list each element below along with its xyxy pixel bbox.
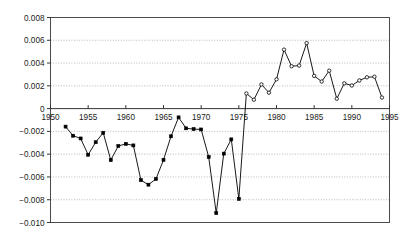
data-point-marker-open [260, 83, 263, 86]
data-point-marker-filled [139, 179, 142, 182]
line-chart: 0.0080.0060.0040.0020−0.002−0.004−0.006−… [0, 0, 413, 243]
chart-container: 0.0080.0060.0040.0020−0.002−0.004−0.006−… [0, 0, 413, 243]
data-point-marker-filled [102, 131, 105, 134]
data-point-marker-open [358, 79, 361, 82]
data-point-marker-open [365, 76, 368, 79]
x-tick-label: 1995 [380, 113, 399, 122]
data-point-marker-filled [87, 153, 90, 156]
data-point-marker-filled [185, 127, 188, 130]
data-point-marker-filled [147, 183, 150, 186]
y-tick-label: 0.002 [24, 82, 45, 91]
data-point-marker-open [290, 65, 293, 68]
data-point-marker-filled [237, 197, 240, 200]
x-tick-label: 1990 [343, 113, 362, 122]
data-point-marker-open [343, 82, 346, 85]
data-point-marker-open [282, 48, 285, 51]
y-tick-label: −0.002 [19, 127, 45, 136]
data-point-marker-open [267, 91, 270, 94]
data-point-marker-open [305, 41, 308, 44]
data-point-marker-filled [154, 177, 157, 180]
data-point-marker-open [245, 92, 248, 95]
y-tick-label: 0.006 [24, 36, 45, 45]
y-tick-label: −0.004 [19, 150, 45, 159]
x-tick-label: 1970 [192, 113, 211, 122]
data-point-marker-filled [124, 142, 127, 145]
y-tick-label: 0.004 [24, 59, 45, 68]
data-point-marker-filled [215, 212, 218, 215]
data-point-marker-open [275, 78, 278, 81]
x-tick-label: 1985 [305, 113, 324, 122]
data-point-marker-open [328, 69, 331, 72]
y-tick-label: −0.008 [19, 196, 45, 205]
data-point-marker-open [312, 74, 315, 77]
x-tick-label: 1955 [79, 113, 98, 122]
data-point-marker-open [252, 98, 255, 101]
data-point-marker-open [320, 80, 323, 83]
data-point-marker-filled [162, 158, 165, 161]
data-point-marker-filled [109, 159, 112, 162]
x-tick-label: 1960 [117, 113, 136, 122]
x-tick-label: 1950 [41, 113, 60, 122]
data-point-marker-filled [79, 137, 82, 140]
x-tick-label: 1965 [154, 113, 173, 122]
data-point-marker-filled [132, 144, 135, 147]
data-point-marker-filled [230, 138, 233, 141]
y-tick-label: 0.008 [24, 14, 45, 23]
data-point-marker-filled [222, 152, 225, 155]
data-point-marker-filled [200, 128, 203, 131]
data-point-marker-filled [170, 135, 173, 138]
data-point-marker-filled [192, 128, 195, 131]
x-tick-label: 1975 [230, 113, 249, 122]
data-point-marker-filled [207, 156, 210, 159]
data-point-marker-open [297, 64, 300, 67]
y-tick-label: −0.010 [19, 219, 45, 228]
y-tick-label: −0.006 [19, 173, 45, 182]
data-point-marker-filled [117, 144, 120, 147]
data-point-marker-open [380, 96, 383, 99]
data-point-marker-open [373, 75, 376, 78]
data-point-marker-open [335, 97, 338, 100]
data-point-marker-filled [64, 125, 67, 128]
data-point-marker-filled [72, 134, 75, 137]
data-point-marker-filled [177, 116, 180, 119]
data-point-marker-open [350, 84, 353, 87]
data-point-marker-filled [94, 141, 97, 144]
x-tick-label: 1980 [267, 113, 286, 122]
